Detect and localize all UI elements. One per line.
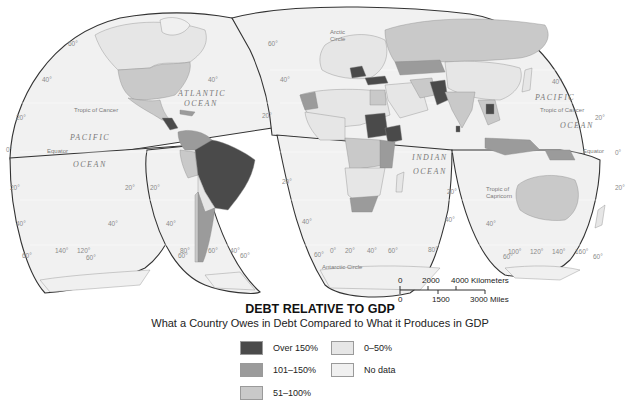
legend-swatch (240, 341, 263, 355)
atlantic-label-2: OCEAN (184, 99, 218, 108)
tropic-capricorn-label-1: Tropic of (486, 186, 509, 192)
svg-text:40°: 40° (280, 76, 290, 83)
legend-item-0-50: 0–50% (331, 341, 392, 355)
svg-text:40°: 40° (42, 76, 52, 83)
svg-text:20°: 20° (595, 114, 605, 121)
new-guinea (545, 150, 575, 160)
svg-text:20°: 20° (615, 184, 625, 191)
svg-text:80°: 80° (428, 246, 438, 253)
svg-text:60°: 60° (388, 247, 398, 254)
svg-text:40°: 40° (302, 218, 312, 225)
legend-item-no-data: No data (331, 363, 396, 377)
svg-text:40°: 40° (208, 76, 218, 83)
legend-label: 51–100% (273, 388, 311, 398)
svg-text:60°: 60° (593, 253, 603, 260)
sudan (365, 113, 388, 138)
svg-text:20°: 20° (10, 184, 20, 191)
pacific-east-label-2: OCEAN (560, 121, 594, 130)
svg-text:60°: 60° (22, 252, 32, 259)
svg-text:0°: 0° (6, 146, 13, 153)
laos (486, 104, 494, 114)
legend-swatch (240, 386, 263, 400)
svg-text:60°: 60° (240, 252, 250, 259)
svg-text:60°: 60° (178, 252, 188, 259)
pacific-west-label-1: PACIFIC (69, 133, 110, 142)
legend-subtitle: What a Country Owes in Debt Compared to … (0, 317, 640, 329)
legend-swatch (331, 341, 354, 355)
central-africa (345, 138, 385, 170)
svg-text:160°: 160° (575, 248, 589, 255)
egypt (370, 90, 386, 105)
tropic-capricorn-label-2: Capricorn (486, 193, 512, 199)
svg-text:20°: 20° (150, 184, 160, 191)
legend-label: Over 150% (273, 343, 318, 353)
svg-text:40°: 40° (367, 247, 377, 254)
pacific-east-label-1: PACIFIC (534, 93, 575, 102)
svg-text:40°: 40° (16, 220, 26, 227)
tropic-cancer-west-label: Tropic of Cancer (74, 107, 118, 113)
new-zealand (595, 205, 605, 228)
equator-east-label: Equator (583, 148, 604, 154)
world-map: ATLANTIC OCEAN PACIFIC OCEAN INDIAN OCEA… (0, 0, 640, 300)
atlantic-label-1: ATLANTIC (177, 89, 226, 98)
antarctic-circle-label: Antarctic Circle (322, 264, 363, 270)
svg-text:120°: 120° (77, 247, 91, 254)
pacific-west-label-2: OCEAN (73, 160, 107, 169)
svg-text:40°: 40° (552, 78, 562, 85)
australia (516, 175, 578, 220)
svg-text:20°: 20° (125, 184, 135, 191)
arctic-circle-label-2: Circle (330, 36, 346, 42)
legend-label: No data (364, 365, 396, 375)
svg-text:20°: 20° (345, 247, 355, 254)
svg-text:0°: 0° (330, 247, 337, 254)
indian-label-2: OCEAN (413, 167, 447, 176)
svg-text:60°: 60° (68, 40, 78, 47)
ethiopia (385, 125, 402, 143)
legend-swatch (240, 363, 263, 377)
svg-text:40°: 40° (486, 220, 496, 227)
scale-km-0: 0 (398, 276, 402, 285)
scale-km-4000: 4000 Kilometers (451, 276, 509, 285)
indian-label-1: INDIAN (411, 153, 448, 162)
equator-west-label: Equator (47, 148, 68, 154)
sri-lanka (456, 126, 460, 132)
svg-text:60°: 60° (314, 251, 324, 258)
svg-text:60°: 60° (268, 40, 278, 47)
svg-text:140°: 140° (552, 248, 566, 255)
svg-text:120°: 120° (530, 248, 544, 255)
scale-ruler (398, 286, 488, 294)
legend-label: 101–150% (273, 365, 316, 375)
svg-text:60°: 60° (503, 253, 513, 260)
svg-text:40°: 40° (108, 220, 118, 227)
chile (195, 192, 198, 262)
svg-text:140°: 140° (55, 247, 69, 254)
legend-swatch (331, 363, 354, 377)
arctic-circle-label-1: Arctic (330, 29, 345, 35)
svg-text:60°: 60° (208, 247, 218, 254)
svg-text:20°: 20° (447, 188, 457, 195)
svg-text:40°: 40° (166, 220, 176, 227)
russia (385, 19, 548, 62)
legend-title: DEBT RELATIVE TO GDP (0, 302, 640, 316)
svg-text:20°: 20° (262, 112, 272, 119)
scale-km-2000: 2000 (422, 276, 440, 285)
legend-label: 0–50% (364, 343, 392, 353)
svg-text:20°: 20° (282, 178, 292, 185)
svg-text:40°: 40° (445, 216, 455, 223)
tropic-cancer-east-label: Tropic of Cancer (540, 107, 584, 113)
legend-item-101-150: 101–150% (240, 363, 316, 377)
legend-item-over-150: Over 150% (240, 341, 318, 355)
svg-text:40°: 40° (230, 247, 240, 254)
svg-text:0°: 0° (615, 149, 622, 156)
svg-text:60°: 60° (86, 254, 96, 261)
legend-item-51-100: 51–100% (240, 386, 311, 400)
svg-text:20°: 20° (16, 114, 26, 121)
